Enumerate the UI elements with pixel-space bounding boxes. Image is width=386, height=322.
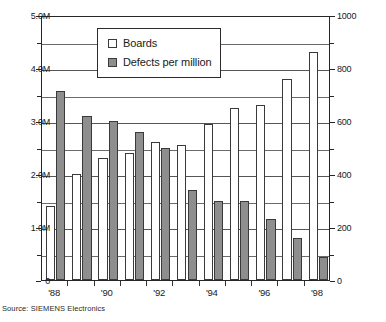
x-axis-tick (146, 281, 147, 286)
left-axis-tick-label: 1.0M (31, 224, 50, 233)
bar-defects-98 (319, 257, 328, 280)
right-axis-minor-tick (330, 255, 334, 256)
left-axis-minor-tick (37, 202, 41, 203)
legend-item-defects: Defects per million (108, 53, 220, 72)
bar-defects-89 (82, 116, 91, 280)
right-axis-tick (330, 281, 335, 282)
chart-figure: 01.0M2.0M3.0M4.0M5.0M 02004006008001000 … (0, 0, 386, 322)
bar-boards-89 (72, 174, 81, 280)
right-axis-tick (330, 175, 335, 176)
x-axis-label-96: '96 (248, 288, 280, 298)
bar-boards-96 (256, 105, 265, 280)
right-axis-tick-label: 400 (337, 171, 351, 180)
x-axis-tick (67, 281, 68, 286)
right-axis-tick-label: 600 (337, 118, 351, 127)
left-axis-tick-label: 2.0M (31, 171, 50, 180)
bar-defects-92 (161, 148, 170, 281)
right-axis-tick (330, 16, 335, 17)
bar-defects-88 (56, 91, 65, 280)
bar-boards-90 (98, 158, 107, 280)
bar-defects-93 (188, 190, 197, 280)
x-axis-tick (304, 281, 305, 286)
hollow-square-swatch-icon (108, 39, 117, 48)
bar-defects-91 (135, 132, 144, 280)
bar-boards-91 (125, 153, 134, 280)
x-axis-label-94: '94 (196, 288, 228, 298)
left-axis-tick (36, 281, 41, 282)
x-axis-tick (251, 281, 252, 286)
x-axis-tick (94, 281, 95, 286)
left-axis-tick-label: 4.0M (31, 65, 50, 74)
right-axis-tick-label: 200 (337, 224, 351, 233)
x-axis-tick (199, 281, 200, 286)
filled-gray-square-swatch-icon (108, 58, 117, 67)
x-axis-tick (277, 281, 278, 286)
x-axis-label-92: '92 (143, 288, 175, 298)
left-axis-minor-tick (37, 43, 41, 44)
right-axis-tick-label: 1000 (337, 12, 356, 21)
left-axis-tick-label: 3.0M (31, 118, 50, 127)
right-axis-tick (330, 69, 335, 70)
right-axis-tick (330, 228, 335, 229)
x-axis-tick (120, 281, 121, 286)
left-axis-minor-tick (37, 149, 41, 150)
right-axis-tick (330, 122, 335, 123)
bar-defects-94 (214, 201, 223, 281)
x-axis-tick (225, 281, 226, 286)
bar-boards-98 (309, 52, 318, 280)
right-axis-minor-tick (330, 43, 334, 44)
left-axis-minor-tick (37, 96, 41, 97)
right-axis-minor-tick (330, 149, 334, 150)
x-axis-tick (172, 281, 173, 286)
bar-defects-90 (109, 121, 118, 280)
legend-item-boards: Boards (108, 34, 220, 53)
bar-boards-88 (46, 206, 55, 280)
left-axis-tick-label: 5.0M (31, 12, 50, 21)
bar-boards-92 (151, 142, 160, 280)
right-axis-tick-label: 0 (337, 277, 342, 286)
left-axis-tick-label: 0 (45, 277, 50, 286)
legend-item-label: Boards (123, 38, 157, 49)
source-caption: Source: SIEMENS Electronics (2, 304, 105, 313)
bar-defects-95 (240, 201, 249, 281)
bar-boards-94 (204, 124, 213, 280)
right-axis-tick-label: 800 (337, 65, 351, 74)
right-axis-minor-tick (330, 96, 334, 97)
x-axis-label-90: '90 (91, 288, 123, 298)
x-axis-label-98: '98 (301, 288, 333, 298)
bar-boards-95 (230, 108, 239, 280)
bar-defects-97 (293, 238, 302, 280)
legend-item-label: Defects per million (123, 57, 212, 68)
left-axis-minor-tick (37, 255, 41, 256)
bar-boards-93 (177, 145, 186, 280)
right-axis-minor-tick (330, 202, 334, 203)
chart-legend: Boards Defects per million (97, 28, 221, 78)
bar-defects-96 (266, 219, 275, 280)
bar-boards-97 (282, 79, 291, 280)
x-axis-label-88: '88 (38, 288, 70, 298)
